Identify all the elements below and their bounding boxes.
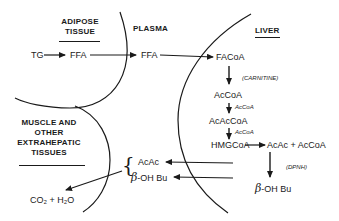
- node-hmgcoa: HMGCoA: [211, 141, 250, 150]
- cofactor-carnitine: (CARNITINE): [242, 75, 278, 81]
- node-acaccoa: AcAcCoA: [209, 117, 248, 126]
- muscle-title: MUSCLE AND OTHER EXTRAHEPATIC TISSUES: [14, 119, 84, 157]
- cofactor-dpnh: (DPNH): [286, 164, 307, 170]
- node-beta-ohbu-plasma: β-OH Bu: [131, 172, 167, 183]
- adipose-title-line1: ADIPOSE: [56, 18, 104, 26]
- liver-title-underline: [255, 37, 280, 38]
- plasma-title: PLASMA: [133, 25, 168, 33]
- adipose-title-line2: TISSUE: [56, 28, 104, 36]
- muscle-title-line4: TISSUES: [14, 149, 84, 157]
- adipose-title-underline: [59, 41, 100, 42]
- ohbu-plasma-text: -OH Bu: [137, 173, 167, 183]
- node-co2-h2o: CO₂ + H₂O: [30, 196, 74, 205]
- muscle-title-underline: [19, 165, 85, 166]
- node-acac-plasma: AcAc: [138, 158, 159, 167]
- liver-title: LIVER: [255, 27, 280, 35]
- node-ffa-plasma: FFA: [141, 51, 158, 60]
- muscle-title-line1: MUSCLE AND: [14, 119, 84, 127]
- liver-boundary: [178, 14, 251, 213]
- cofactor-accoa-2: AcCoA: [235, 129, 254, 135]
- muscle-title-line3: EXTRAHEPATIC: [14, 139, 84, 147]
- node-acac-accoa: AcAc + AcCoA: [267, 141, 326, 150]
- node-beta-ohbu-liver: β-OH Bu: [255, 183, 291, 194]
- node-ffa-adipose: FFA: [70, 51, 87, 60]
- node-tg: TG: [31, 51, 44, 60]
- ketogenesis-diagram: ADIPOSE TISSUE PLASMA LIVER MUSCLE AND O…: [0, 0, 339, 221]
- node-accoa: AcCoA: [214, 91, 242, 100]
- cofactor-accoa-1: AcCoA: [235, 104, 254, 110]
- adipose-title: ADIPOSE TISSUE: [56, 18, 104, 36]
- node-facoa: FACoA: [216, 53, 245, 62]
- ohbu-text: -OH Bu: [261, 184, 291, 194]
- muscle-title-line2: OTHER: [14, 129, 84, 137]
